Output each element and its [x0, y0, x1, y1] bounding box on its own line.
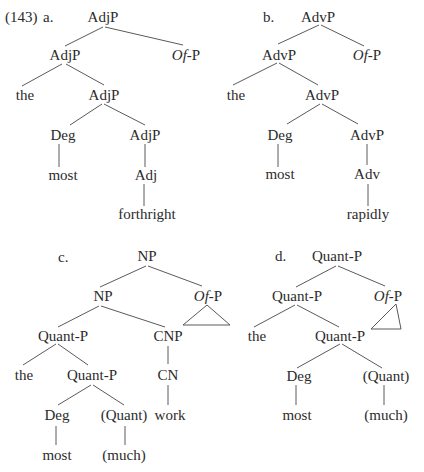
tree-letter: a.	[43, 9, 53, 25]
node-advp: AdvP	[350, 127, 384, 143]
tree-letter: c.	[58, 249, 68, 265]
node-advp: AdvP	[262, 47, 296, 63]
tree-edges	[0, 0, 424, 472]
node-the: the	[15, 367, 33, 383]
node-adjp: AdjP	[50, 47, 81, 63]
node-adjp: AdjP	[130, 127, 161, 143]
node-cn: CN	[158, 367, 179, 383]
p-label: -P	[187, 47, 200, 63]
node-most: most	[48, 167, 77, 183]
node-quant-p: Quant-P	[315, 328, 365, 344]
node-much: (much)	[102, 447, 145, 463]
node-deg: Deg	[51, 127, 76, 143]
node-root: Quant-P	[312, 248, 362, 264]
node-the: the	[248, 328, 266, 344]
of-label: Of	[172, 47, 187, 63]
of-label: Of	[194, 288, 209, 304]
node-the: the	[16, 87, 34, 103]
node-quant: (Quant)	[101, 407, 148, 423]
node-adv: Adv	[354, 166, 380, 182]
node-advp: AdvP	[305, 87, 339, 103]
node-np: NP	[93, 288, 112, 304]
node-root: NP	[137, 248, 156, 264]
node-root: AdjP	[88, 9, 119, 25]
node-work: work	[155, 407, 186, 423]
p-label: -P	[389, 288, 402, 304]
node-deg: Deg	[287, 368, 312, 384]
node-adj: Adj	[135, 167, 158, 183]
node-quant-p: Quant-P	[272, 288, 322, 304]
node-deg: Deg	[45, 407, 70, 423]
node-root: AdvP	[301, 9, 335, 25]
node-quant-p: Quant-P	[38, 328, 88, 344]
node-most: most	[42, 447, 71, 463]
of-label: Of	[353, 47, 368, 63]
tree-letter: b.	[263, 9, 274, 25]
node-cnp: CNP	[153, 328, 182, 344]
node-ofp: Of-P	[194, 288, 222, 304]
node-forthright: forthright	[118, 206, 176, 222]
node-most: most	[265, 166, 294, 182]
node-ofp: Of-P	[374, 288, 402, 304]
p-label: -P	[209, 288, 222, 304]
tree-letter: d.	[275, 248, 286, 264]
node-adjp: AdjP	[89, 87, 120, 103]
example-number: (143)	[5, 9, 38, 25]
node-the: the	[227, 87, 245, 103]
node-ofp: Of-P	[353, 47, 381, 63]
node-ofp: Of-P	[172, 47, 200, 63]
of-label: Of	[374, 288, 389, 304]
node-most: most	[282, 407, 311, 423]
node-quant: (Quant)	[363, 368, 410, 384]
node-much: (much)	[364, 407, 407, 423]
p-label: -P	[368, 47, 381, 63]
node-quant-p: Quant-P	[67, 367, 117, 383]
node-deg: Deg	[268, 127, 293, 143]
node-rapidly: rapidly	[347, 206, 390, 222]
